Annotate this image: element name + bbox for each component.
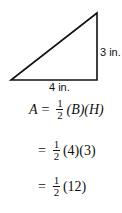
equals-sign: = [38, 179, 46, 195]
equals-sign: = [42, 102, 50, 118]
formula-rhs: (B)(H) [66, 102, 103, 118]
base-label: 4 in. [49, 81, 70, 93]
fraction-half: 1 2 [56, 98, 63, 121]
right-triangle [0, 0, 122, 90]
equation-3: = 1 2 (12) [38, 175, 86, 198]
equals-sign: = [38, 143, 46, 159]
formula-rhs: (12) [63, 179, 86, 195]
area-variable: A [29, 102, 38, 118]
equation-2: = 1 2 (4)(3) [38, 139, 96, 162]
formula-rhs: (4)(3) [63, 143, 96, 159]
height-label: 3 in. [100, 46, 121, 58]
equation-1: A = 1 2 (B)(H) [29, 98, 104, 121]
fraction-half: 1 2 [53, 139, 60, 162]
fraction-half: 1 2 [53, 175, 60, 198]
